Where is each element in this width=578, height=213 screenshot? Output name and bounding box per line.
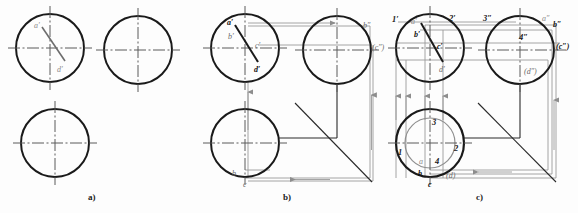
panel-c-label-c-double-prime: (c″) [556, 43, 569, 51]
panel-c-label-a-top: a [419, 158, 423, 166]
panel-a-chord-ad [42, 27, 65, 61]
caption-b: b) [283, 192, 291, 202]
panel-b-label-b-prime: b′ [228, 33, 234, 41]
panel-b-label-c-double-prime: (c″) [372, 44, 384, 52]
panel-c-label-d-double-prime: (d″) [524, 68, 537, 76]
panel-b-label-b-double-prime: b″ [363, 22, 370, 30]
caption-a: a) [88, 192, 96, 202]
caption-c: c) [476, 192, 483, 202]
figure-root: a′ d′ a′ b′ c′ d′ b″ (c″) b c 1′ a′ 2′ 3… [0, 0, 578, 213]
panel-c-label-point-3: 3 [432, 118, 436, 127]
panel-b-label-d-prime: d′ [254, 66, 260, 74]
panel-c-label-3-double-prime: 3″ [483, 14, 492, 23]
panel-b-miter-line-45 [295, 103, 372, 182]
panel-c-label-c-top: c [428, 181, 432, 189]
panel-a-label-d-prime: d′ [57, 66, 63, 74]
panel-c-label-4-double-prime: 4″ [519, 33, 528, 42]
panel-b-label-b-top: b [232, 170, 236, 178]
panel-c-label-d-prime: d′ [439, 66, 445, 74]
panel-c-label-d-top: (d) [446, 172, 455, 180]
panel-c-label-b-top: b [418, 170, 422, 178]
panel-b-label-c-top: c [243, 181, 247, 189]
panel-c-label-point-2: 2 [454, 144, 458, 153]
panel-c-label-1-prime: 1′ [392, 15, 399, 24]
panel-c-label-point-4: 4 [435, 157, 439, 166]
panel-c-label-b-prime: b′ [414, 31, 420, 39]
panel-a-group [8, 6, 180, 185]
panel-b-label-c-prime: c′ [255, 42, 260, 50]
panel-a-label-a-prime: a′ [34, 22, 40, 30]
panel-c-label-a-prime: a′ [411, 18, 417, 26]
panel-c-label-c-prime: c′ [437, 43, 443, 51]
figure-canvas [0, 0, 578, 213]
panel-c-label-point-1: 1 [398, 148, 402, 157]
panel-c-label-a-double-prime: a″ [542, 15, 549, 23]
panel-c-label-b-double-prime: b″ [553, 21, 561, 29]
panel-c-label-2-prime: 2′ [449, 14, 456, 23]
panel-b-label-a-prime: a′ [227, 19, 233, 27]
